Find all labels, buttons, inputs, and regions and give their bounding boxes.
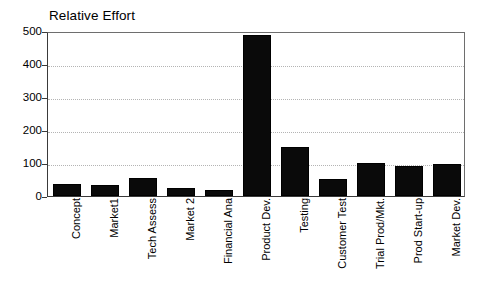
bar [129,178,157,196]
bar-chart: Relative Effort 0100200300400500 Concept… [0,0,484,290]
bar [243,35,271,196]
bar [281,147,309,196]
x-tick-label: Tech Assess [147,198,158,259]
x-tick-label: Trial Prod/Mkt. [375,198,386,269]
x-tick-label: Testing [299,198,310,233]
bar [319,179,347,196]
y-tick-label: 0 [2,191,42,203]
chart-title: Relative Effort [49,8,135,23]
bar [205,190,233,196]
x-tick-label: Market Dev. [451,198,462,256]
bar [167,188,195,196]
x-tick-label: Financial Ana [223,198,234,264]
plot-area [47,32,465,197]
x-tick-label: Customer Test [337,198,348,269]
x-tick-label: Product Dev. [261,198,272,261]
x-tick-label: Market 2 [185,198,196,241]
x-tick-label: Concept [71,198,82,239]
bar [53,184,81,196]
x-tick-label: Prod Start-up [413,198,424,263]
bar [357,163,385,196]
x-tick-label: Market1 [109,198,120,238]
bar [395,166,423,196]
y-tick-label: 400 [2,59,42,71]
bar [91,185,119,196]
bar [433,164,461,196]
y-tick-label: 300 [2,92,42,104]
y-tick-label: 100 [2,158,42,170]
x-axis-labels: ConceptMarket1Tech AssessMarket 2Financi… [47,198,465,288]
y-tick-label: 500 [2,26,42,38]
y-tick-label: 200 [2,125,42,137]
y-axis-labels: 0100200300400500 [0,32,42,197]
